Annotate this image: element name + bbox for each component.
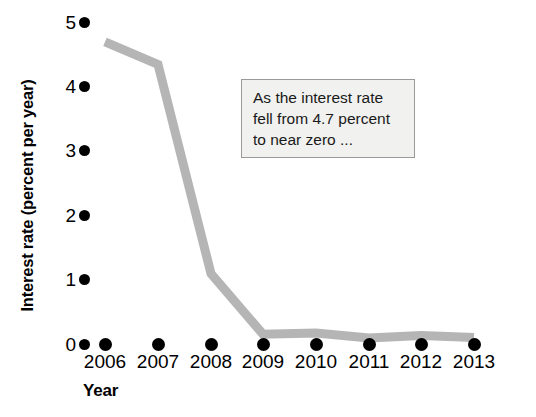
y-tick-dot-icon-1 [79, 274, 90, 285]
chart-figure: Interest rate (percent per year) 5 4 3 2… [0, 0, 536, 417]
y-tick-dot-icon-5 [79, 17, 90, 28]
y-tick-4: 4 [48, 75, 90, 97]
y-tick-label-3: 3 [65, 141, 79, 160]
y-tick-dot-icon-0 [79, 339, 90, 350]
y-tick-label-2: 2 [65, 206, 79, 225]
x-tick-label-2013: 2013 [442, 352, 506, 373]
x-marker-dot-2011 [363, 338, 376, 351]
y-tick-5: 5 [48, 11, 90, 33]
y-tick-3: 3 [48, 139, 90, 161]
x-marker-dot-2013 [468, 338, 481, 351]
x-marker-dot-2010 [310, 338, 323, 351]
x-axis-title: Year [83, 381, 118, 401]
x-marker-dot-2006 [99, 338, 112, 351]
y-tick-1: 1 [48, 268, 90, 290]
y-tick-dot-icon-2 [79, 210, 90, 221]
annotation-line-2: fell from 4.7 percent [253, 108, 405, 129]
x-marker-dot-2007 [152, 338, 165, 351]
x-marker-dot-2012 [415, 338, 428, 351]
y-tick-dot-icon-4 [79, 81, 90, 92]
y-tick-label-4: 4 [65, 77, 79, 96]
y-tick-label-1: 1 [65, 270, 79, 289]
annotation-line-1: As the interest rate [253, 87, 405, 108]
y-axis-title: Interest rate (percent per year) [18, 31, 37, 361]
annotation-callout: As the interest rate fell from 4.7 perce… [241, 79, 415, 158]
x-tick-2013: 2013 [442, 352, 506, 373]
x-marker-dot-2008 [205, 338, 218, 351]
y-tick-dot-icon-3 [79, 145, 90, 156]
y-tick-label-5: 5 [65, 13, 79, 32]
y-tick-2: 2 [48, 204, 90, 226]
annotation-line-3: to near zero ... [253, 129, 405, 150]
x-marker-dot-2009 [257, 338, 270, 351]
y-tick-label-0: 0 [65, 335, 79, 354]
